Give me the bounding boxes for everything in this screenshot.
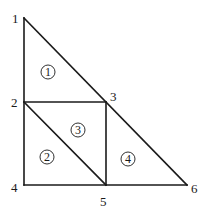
element-label: 2 (44, 150, 50, 164)
node-label-5: 5 (100, 194, 107, 209)
element-label: 1 (45, 65, 51, 79)
node-label-3: 3 (110, 89, 117, 104)
element-labels: 1234 (40, 65, 135, 166)
element-label: 4 (125, 152, 131, 166)
element-marker-2: 2 (40, 150, 54, 164)
node-label-2: 2 (11, 95, 18, 110)
edge-2-5 (24, 102, 106, 185)
node-labels: 123456 (11, 11, 198, 209)
node-label-4: 4 (11, 180, 18, 195)
node-label-1: 1 (12, 11, 19, 26)
element-marker-4: 4 (121, 152, 135, 166)
element-marker-1: 1 (41, 65, 55, 79)
element-label: 3 (75, 123, 81, 137)
element-marker-3: 3 (71, 123, 85, 137)
mesh-diagram: 1234 123456 (0, 0, 209, 213)
node-label-6: 6 (191, 181, 198, 196)
